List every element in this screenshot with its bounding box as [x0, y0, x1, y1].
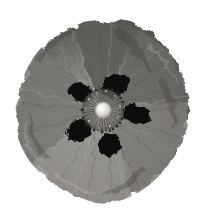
photo-frame: Black and white close-up photograph of a… — [0, 0, 204, 217]
flower-photo: Black and white close-up photograph of a… — [0, 0, 204, 217]
